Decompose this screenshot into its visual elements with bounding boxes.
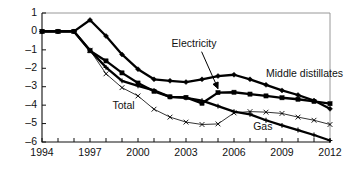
line-chart: 10–1–2–3–4–5–6 1994199720002003200620092… [0, 0, 350, 175]
data-point [216, 91, 220, 95]
annotation-label-middle-distillates: Middle distillates [266, 67, 343, 79]
y-tick-label: –6 [25, 135, 37, 147]
x-tick-label: 2012 [318, 146, 342, 158]
data-point [104, 59, 108, 63]
annotation-label-electricity: Electricity [172, 37, 218, 49]
y-tick-label: –3 [25, 79, 37, 91]
x-tick-label: 2009 [270, 146, 294, 158]
data-point [312, 99, 316, 103]
data-point [280, 96, 284, 100]
x-tick-label: 1994 [30, 146, 54, 158]
data-point [264, 94, 268, 98]
y-tick-label: 1 [31, 6, 37, 18]
y-tick-label: –4 [25, 98, 37, 110]
y-tick-label: –2 [25, 61, 37, 73]
x-tick-label: 2003 [174, 146, 198, 158]
data-point [248, 92, 252, 96]
data-point [296, 97, 300, 101]
y-tick-label: 0 [31, 24, 37, 36]
y-tick-label: –5 [25, 116, 37, 128]
annotation-label-gas: Gas [253, 120, 272, 132]
chart-container: 10–1–2–3–4–5–6 1994199720002003200620092… [0, 0, 350, 175]
data-point [328, 102, 332, 106]
x-tick-label: 1997 [78, 146, 102, 158]
x-tick-label: 2000 [126, 146, 150, 158]
annotation-label-total: Total [112, 99, 134, 111]
data-point [232, 90, 236, 94]
data-point [120, 71, 124, 75]
y-tick-label: –1 [25, 43, 37, 55]
x-tick-label: 2006 [222, 146, 246, 158]
